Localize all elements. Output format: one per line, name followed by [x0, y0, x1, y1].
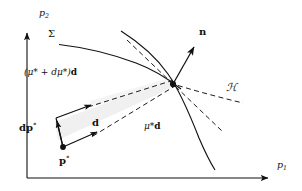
- d-vector-bold: d: [71, 67, 77, 77]
- x-axis-label-sub: 1: [283, 164, 287, 171]
- mu-star-d-label: μ*d: [144, 122, 161, 131]
- mu-star-scalar: μ*: [144, 121, 154, 131]
- mu-plus-dmu-d-label: (μ* + dμ*)d: [24, 68, 77, 77]
- diagram-svg: [0, 0, 302, 191]
- tangency-point: [170, 81, 176, 87]
- dp-vector-label-text: dp: [19, 122, 33, 133]
- sigma-curve-label: Σ: [48, 29, 55, 39]
- d-mu-star: dμ*: [51, 67, 67, 77]
- y-axis-label-sub: 2: [45, 12, 49, 19]
- normal-arrow: [173, 47, 194, 84]
- normal-vector-label-text: n: [199, 26, 206, 37]
- x-axis-label: p1: [277, 160, 287, 171]
- dp-vector-label: dp°: [19, 122, 36, 133]
- p-point-degree: °: [66, 154, 70, 163]
- base-point-p0: [60, 144, 66, 150]
- mu-star: μ*: [28, 67, 38, 77]
- normal-vector-label: n: [199, 27, 206, 37]
- d-vector-bold-2: d: [154, 121, 160, 131]
- p-point-label: p°: [59, 155, 70, 166]
- dp-vector-degree: °: [33, 121, 37, 130]
- d-vector-label-text: d: [92, 117, 99, 128]
- h-curve-label: ℋ: [226, 82, 237, 93]
- plus-sign: +: [38, 67, 51, 77]
- y-axis-label: p2: [39, 8, 49, 19]
- d-vector-label: d: [92, 118, 99, 128]
- p-point-label-text: p: [59, 155, 66, 166]
- figure-canvas: p2 p1 Σ ℋ n (μ* + dμ*)d μ*d d dp° p°: [0, 0, 302, 191]
